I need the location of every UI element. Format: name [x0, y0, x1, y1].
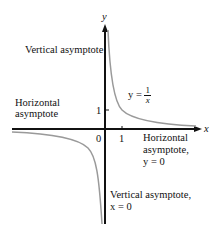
vertical-asymptote-top-label: Vertical asymptote	[25, 44, 103, 55]
curve-equation: y = 1 x	[128, 86, 151, 105]
equation-denominator: x	[146, 96, 150, 105]
equation-lhs: y =	[128, 89, 142, 100]
y-tick-label: 1	[96, 105, 101, 116]
vertical-asymptote-bottom-label-1: Vertical asymptote,	[110, 189, 191, 200]
y-axis-label: y	[102, 11, 107, 22]
horizontal-asymptote-left-label-2: asymptote	[15, 108, 58, 119]
horizontal-asymptote-right-label-1: Horizontal	[143, 132, 188, 143]
horizontal-asymptote-right-label-3: y = 0	[143, 156, 165, 167]
equation-fraction: 1 x	[144, 86, 151, 105]
curve-negative-branch	[12, 132, 102, 224]
horizontal-asymptote-right-label-2: asymptote,	[143, 144, 189, 155]
y-axis-arrow-icon	[102, 24, 108, 32]
x-tick-label: 1	[119, 133, 124, 144]
horizontal-asymptote-left-label-1: Horizontal	[15, 97, 60, 108]
x-axis-arrow-icon	[194, 126, 202, 132]
curve-positive-branch	[108, 30, 196, 126]
origin-label: 0	[96, 133, 101, 144]
x-axis-label: x	[204, 123, 209, 134]
vertical-asymptote-bottom-label-2: x = 0	[110, 201, 132, 212]
